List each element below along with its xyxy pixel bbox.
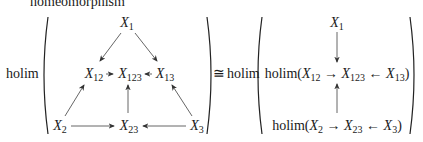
node-x3: X3: [190, 119, 204, 133]
node-right-bottom: holim(X2 → X23 ← X3): [272, 119, 402, 133]
arrow-x3-x13: [172, 85, 192, 116]
node-right-middle: holim(X12 → X123 ← X13): [265, 67, 410, 81]
arrow-x2-x12: [65, 85, 84, 116]
node-x2: X2: [53, 119, 67, 133]
right-paren: [207, 17, 211, 134]
node-x23: X23: [120, 119, 139, 133]
holim-label-right: holim: [227, 67, 260, 81]
arrow-x1-x12: [100, 33, 121, 61]
iso-symbol: ≅: [213, 67, 225, 81]
right-paren-2: [410, 17, 414, 134]
node-right-x1: X1: [330, 16, 344, 30]
node-x12: X12: [85, 67, 104, 81]
node-x13: X13: [156, 67, 175, 81]
node-x123: X123: [118, 67, 142, 81]
left-paren: [44, 17, 48, 134]
node-x1: X1: [120, 16, 134, 30]
holim-label-left: holim: [6, 67, 39, 81]
arrow-x1-x13: [135, 33, 157, 61]
